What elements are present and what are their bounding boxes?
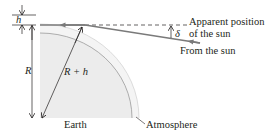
apparent-position-label-line2: of the sun [189, 28, 231, 39]
atmosphere-leader-line [136, 117, 145, 124]
earth-label: Earth [64, 119, 87, 130]
atmosphere-label: Atmosphere [146, 119, 198, 130]
sun-ray-arrow [190, 41, 200, 43]
R-label: R [24, 65, 32, 76]
refraction-diagram: h R δ R + h Apparent position of the sun… [0, 0, 277, 134]
from-sun-label: From the sun [180, 45, 236, 56]
R-plus-h-label: R + h [63, 66, 88, 77]
apparent-position-label-line1: Apparent position [189, 16, 265, 27]
delta-label: δ [175, 28, 181, 39]
h-label: h [16, 14, 21, 25]
sun-ray-line [85, 25, 200, 43]
